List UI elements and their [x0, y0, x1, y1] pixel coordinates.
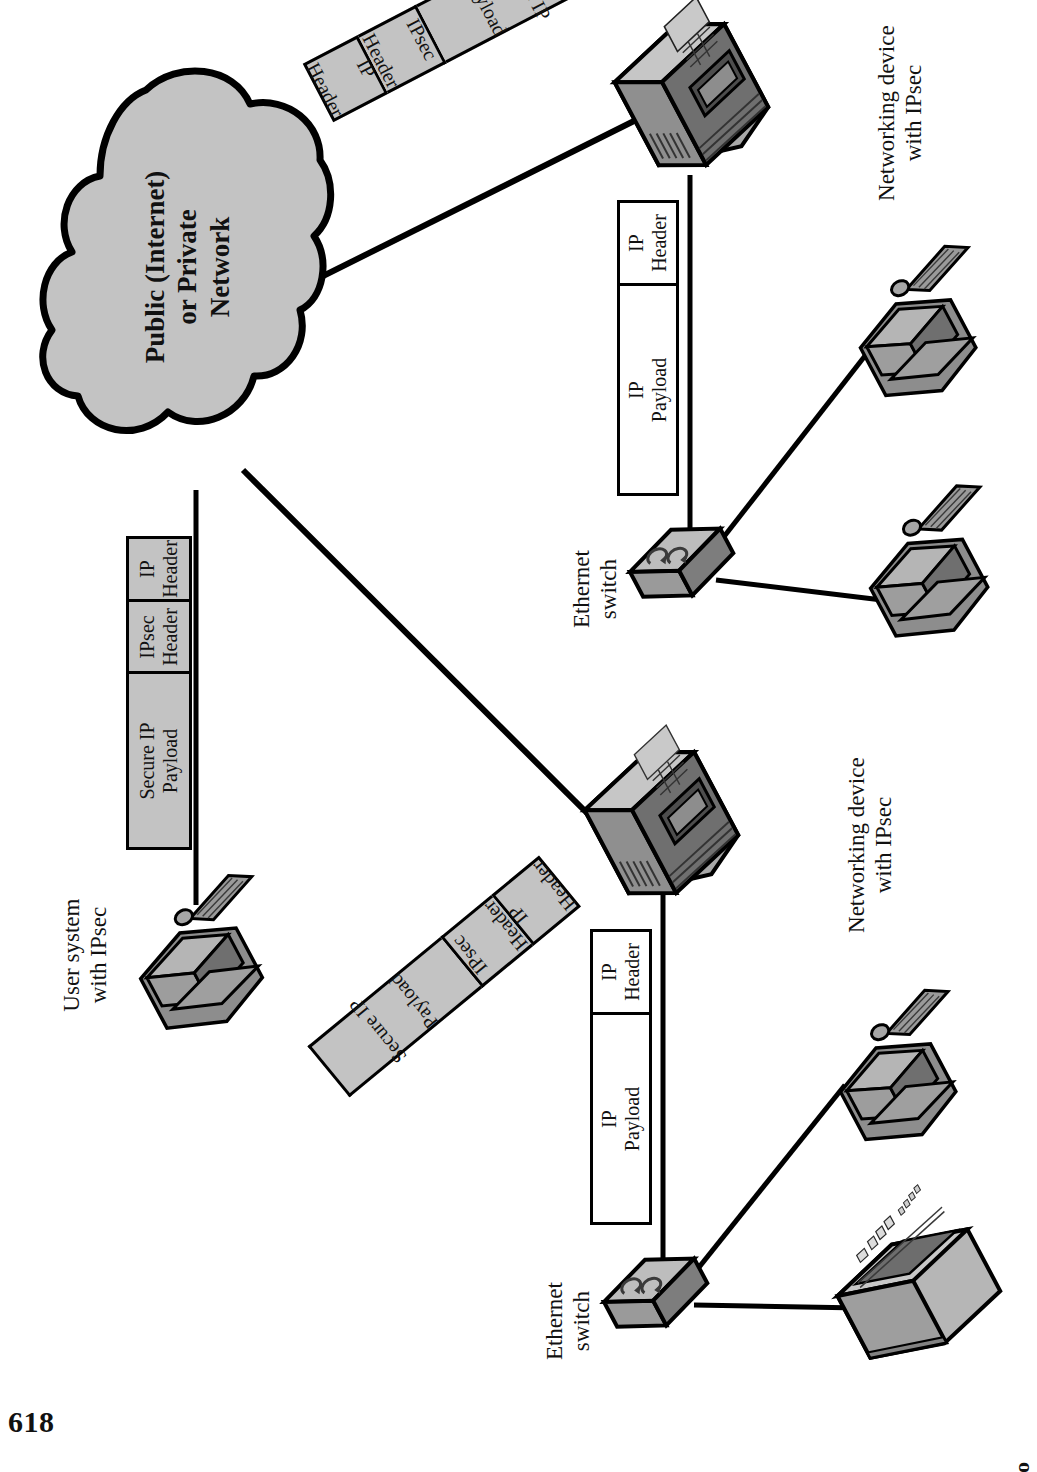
ethernet-switch-icon	[620, 516, 750, 626]
packet-field-ip-header: IP Header	[617, 200, 679, 286]
ethernet-switch-icon	[594, 1246, 724, 1356]
secure-ip-packet-left: IP Header IPsec Header Secure IP Payload	[126, 536, 192, 850]
packet-field-ip-header: IP Header	[126, 536, 192, 602]
packet-field-ipsec-header: IPsec Header	[126, 602, 192, 674]
network-cloud: Public (Internet) or Private Network	[38, 52, 338, 482]
ethernet-switch-bottom-label: Ethernet switch	[541, 1231, 595, 1411]
link-cloud-to-device-bottom	[243, 470, 600, 826]
device-bottom-label-line2: with IPsec	[870, 735, 897, 955]
figure-page: Public (Internet) or Private Network IP …	[0, 0, 1037, 1472]
cloud-label-line2: or Private	[172, 171, 204, 364]
user-system	[118, 880, 318, 1070]
networking-device-bottom-label: Networking device with IPsec	[843, 735, 897, 955]
networking-device-bottom	[578, 742, 748, 922]
router-icon	[578, 742, 748, 922]
ip-packet-top: IP Header IP Payload	[617, 200, 679, 496]
switch-bottom-label-line1: Ethernet	[541, 1231, 568, 1411]
packet-field-ip-header: IP Header	[590, 929, 652, 1015]
workstation-bottom	[812, 1000, 1012, 1180]
device-bottom-label-line1: Networking device	[843, 735, 870, 955]
networking-device-top-label: Networking device with IPsec	[873, 3, 927, 223]
cloud-label: Public (Internet) or Private Network	[139, 171, 236, 364]
switch-bottom-label-line2: switch	[568, 1231, 595, 1411]
figure-title: An IP Security Scenario	[1009, 1462, 1034, 1472]
ethernet-switch-top	[620, 516, 750, 626]
device-top-label-line1: Networking device	[873, 3, 900, 223]
networking-device-top	[608, 14, 778, 194]
figure-caption: Figure 19.1An IP Security Scenario	[1009, 1462, 1035, 1472]
user-system-label-line1: User system	[58, 860, 85, 1050]
switch-top-label-line1: Ethernet	[568, 499, 595, 679]
cloud-label-line1: Public (Internet)	[139, 171, 171, 364]
switch-top-label-line2: switch	[595, 499, 622, 679]
page-number: 618	[8, 1405, 55, 1439]
user-system-label-line2: with IPsec	[85, 860, 112, 1050]
cloud-label-line3: Network	[204, 171, 236, 364]
workstation-top-a	[832, 256, 1032, 436]
router-icon	[608, 14, 778, 194]
workstation-icon	[832, 256, 1032, 436]
packet-field-secure-payload: Secure IP Payload	[126, 674, 192, 850]
workstation-icon	[118, 880, 318, 1070]
workstation-icon	[812, 1000, 1012, 1180]
ip-packet-bottom: IP Header IP Payload	[590, 929, 652, 1225]
user-system-label: User system with IPsec	[58, 860, 112, 1050]
ethernet-switch-top-label: Ethernet switch	[568, 499, 622, 679]
server-icon	[822, 1208, 1022, 1378]
device-top-label-line2: with IPsec	[900, 3, 927, 223]
server-bottom	[822, 1208, 1022, 1378]
packet-field-ip-payload: IP Payload	[617, 286, 679, 496]
ethernet-switch-bottom	[594, 1246, 724, 1356]
packet-field-ip-payload: IP Payload	[590, 1015, 652, 1225]
workstation-top-b	[848, 498, 1037, 674]
workstation-icon	[848, 498, 1037, 674]
link-cloud-to-device-top	[305, 118, 640, 285]
